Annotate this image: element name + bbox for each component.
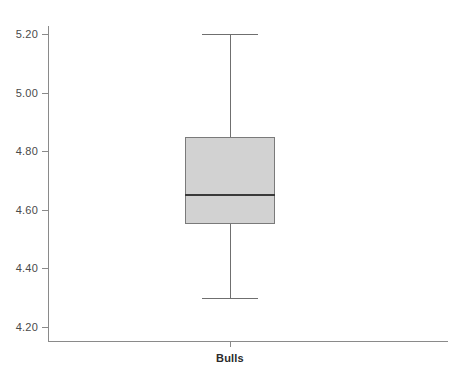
x-axis-tick-mark [230, 342, 231, 347]
box-iqr-rect [185, 137, 275, 225]
boxplot-series-bulls [0, 0, 458, 385]
whisker-cap-lower [202, 298, 258, 299]
x-axis-category-label-bulls: Bulls [180, 352, 280, 364]
box-plot-chart: 5.20 5.00 4.80 4.60 4.40 4.20 Bulls [0, 0, 458, 385]
whisker-stem-upper [230, 34, 231, 137]
median-line [185, 194, 275, 196]
whisker-stem-lower [230, 224, 231, 297]
